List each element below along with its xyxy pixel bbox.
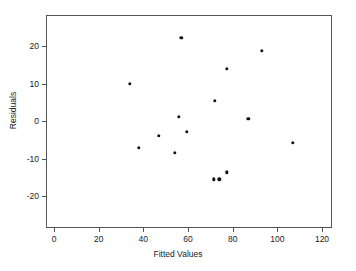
- x-tick-label: 20: [94, 234, 103, 244]
- data-point: [225, 67, 228, 70]
- y-tick-mark: [42, 159, 46, 160]
- y-tick-label: 20: [30, 41, 39, 51]
- data-point: [218, 177, 221, 180]
- x-axis-title: Fitted Values: [0, 249, 356, 260]
- x-tick-mark: [233, 228, 234, 232]
- x-tick-mark: [188, 228, 189, 232]
- data-point: [212, 177, 215, 180]
- y-tick-mark: [42, 46, 46, 47]
- y-tick-label: 10: [30, 79, 39, 89]
- y-tick-label: -20: [27, 191, 39, 201]
- x-tick-mark: [322, 228, 323, 232]
- data-point: [225, 171, 228, 174]
- data-point: [260, 49, 263, 52]
- plot-area: [46, 15, 332, 228]
- x-tick-mark: [277, 228, 278, 232]
- data-point: [157, 134, 160, 137]
- x-tick-mark: [99, 228, 100, 232]
- y-tick-mark: [42, 196, 46, 197]
- data-point: [247, 117, 250, 120]
- data-point: [137, 146, 140, 149]
- data-point: [173, 151, 176, 154]
- data-point: [128, 82, 131, 85]
- residuals-scatter-plot: 020406080100120 20100-10-20 Fitted Value…: [0, 0, 356, 271]
- data-point: [213, 99, 216, 102]
- x-tick-label: 0: [52, 234, 57, 244]
- data-point: [291, 141, 294, 144]
- y-tick-mark: [42, 84, 46, 85]
- x-tick-label: 120: [315, 234, 329, 244]
- data-point: [177, 115, 180, 118]
- y-axis-title: Residuals: [8, 71, 19, 151]
- x-tick-label: 40: [139, 234, 148, 244]
- x-tick-label: 100: [270, 234, 284, 244]
- x-tick-mark: [143, 228, 144, 232]
- data-point: [180, 36, 183, 39]
- x-tick-label: 80: [228, 234, 237, 244]
- y-tick-label: 0: [34, 116, 39, 126]
- x-tick-mark: [54, 228, 55, 232]
- data-point: [185, 130, 188, 133]
- x-tick-label: 60: [183, 234, 192, 244]
- y-tick-mark: [42, 121, 46, 122]
- y-tick-label: -10: [27, 154, 39, 164]
